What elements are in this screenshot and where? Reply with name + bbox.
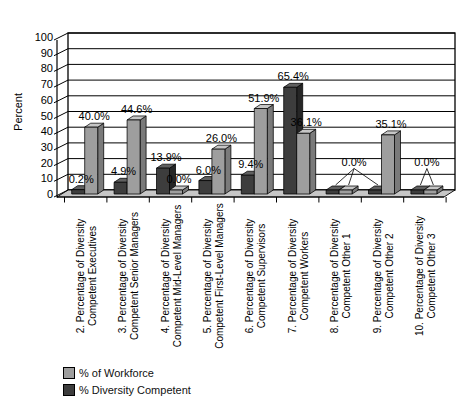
category-label-line: Competent Other 1	[341, 233, 352, 318]
category-label-line: Competent Workers	[299, 232, 310, 321]
category-label-line: Competent Executives	[87, 226, 98, 326]
bar	[254, 109, 267, 194]
bar-value-label: 35.1%	[375, 118, 406, 130]
y-axis-tick	[54, 143, 68, 150]
category-label: 7. Percentage of DiversityCompetent Work…	[287, 219, 310, 334]
y-tick-label: 50	[41, 110, 53, 122]
y-tick-label: 70	[41, 78, 53, 90]
category-label-line: 2. Percentage of Diversity	[75, 219, 86, 334]
bar	[72, 190, 85, 194]
category-label-line: 9. Percentage of Diversity	[372, 219, 383, 334]
bar-value-label: 0.0%	[166, 173, 191, 185]
category-label-line: 8. Percentage of Diversity	[329, 219, 340, 334]
category-label-line: 4. Percentage of Diversity	[160, 219, 171, 334]
bar-value-label: 6.0%	[196, 164, 221, 176]
category-label: 5. Percentage of DiversityCompetent Firs…	[202, 203, 225, 349]
chart-figure: 0102030405060708090100Percent0.2%40.0%4.…	[0, 0, 472, 418]
bar	[339, 190, 352, 194]
y-axis-tick	[54, 64, 68, 71]
bar	[170, 190, 183, 194]
y-axis-tick	[54, 174, 68, 181]
chart-legend: % of Workforce % Diversity Competent	[63, 367, 191, 396]
category-label: 10. Percentage of DiversityCompetent Oth…	[414, 216, 437, 336]
legend-swatch-diversity-competent	[63, 384, 75, 396]
bar	[326, 190, 339, 194]
category-label: 9. Percentage of DiversityCompetent Othe…	[372, 219, 395, 334]
y-axis-tick	[54, 80, 68, 87]
bar-value-label: 65.4%	[278, 70, 309, 82]
y-axis-tick	[54, 33, 68, 40]
y-tick-label: 80	[41, 62, 53, 74]
category-label-line: Competent First-Level Managers	[214, 203, 225, 349]
bar-value-label: 40.0%	[79, 110, 110, 122]
bar	[424, 190, 437, 194]
legend-item-workforce: % of Workforce	[63, 367, 191, 379]
bar-side	[98, 123, 104, 194]
y-tick-label: 10	[41, 172, 53, 184]
bar-value-label: 4.9%	[111, 165, 136, 177]
bar-value-label: 13.9%	[150, 151, 181, 163]
bar	[127, 120, 140, 194]
category-label-line: Competent Senior Managers	[129, 212, 140, 340]
category-label-line: 5. Percentage of Diversity	[202, 219, 213, 334]
y-tick-label: 90	[41, 47, 53, 59]
category-label-line: 7. Percentage of Diversity	[287, 219, 298, 334]
bar-side	[267, 105, 273, 194]
y-tick-label: 0	[47, 188, 53, 200]
bar-value-label: 44.6%	[121, 103, 152, 115]
bar	[411, 190, 424, 194]
bar-side	[225, 145, 231, 194]
zero-callout-label: 0.0%	[342, 156, 367, 168]
y-axis-tick	[54, 96, 68, 103]
bar-value-label: 9.4%	[238, 158, 263, 170]
category-label-line: 10. Percentage of Diversity	[414, 216, 425, 336]
diversity-bar-chart: 0102030405060708090100Percent0.2%40.0%4.…	[0, 0, 472, 418]
legend-label-diversity-competent: % Diversity Competent	[79, 384, 191, 396]
category-label-line: 3. Percentage of Diversity	[117, 219, 128, 334]
bar	[369, 190, 382, 194]
bar	[241, 175, 254, 194]
bar-side	[310, 129, 316, 194]
bar-value-label: 36.1%	[291, 116, 322, 128]
y-axis-title: Percent	[12, 93, 24, 131]
category-label: 8. Percentage of DiversityCompetent Othe…	[329, 219, 352, 334]
y-axis-tick	[54, 112, 68, 119]
bar	[382, 135, 395, 194]
bar	[114, 182, 127, 194]
category-label: 4. Percentage of DiversityCompetent Mid-…	[160, 205, 183, 347]
category-label-line: Competent Other 2	[384, 233, 395, 318]
category-label-line: Competent Supervisors	[256, 224, 267, 329]
legend-label-workforce: % of Workforce	[79, 367, 154, 379]
y-tick-label: 30	[41, 141, 53, 153]
bar	[297, 133, 310, 194]
category-label-line: Competent Mid-Level Managers	[172, 205, 183, 347]
legend-item-diversity-competent: % Diversity Competent	[63, 384, 191, 396]
category-label: 2. Percentage of DiversityCompetent Exec…	[75, 219, 98, 334]
y-tick-label: 60	[41, 94, 53, 106]
zero-callout-label: 0.0%	[414, 156, 439, 168]
bar-side	[140, 116, 146, 194]
bar-side	[395, 131, 401, 194]
category-label: 6. Percentage of DiversityCompetent Supe…	[244, 219, 267, 334]
y-tick-label: 20	[41, 157, 53, 169]
bar-value-label: 26.0%	[206, 132, 237, 144]
y-axis-tick	[54, 127, 68, 134]
y-axis-tick	[54, 49, 68, 56]
y-tick-label: 100	[35, 31, 53, 43]
bar-value-label: 51.9%	[248, 92, 279, 104]
y-tick-label: 40	[41, 125, 53, 137]
legend-swatch-workforce	[63, 367, 75, 379]
y-axis-tick	[54, 159, 68, 166]
category-label-line: Competent Other 3	[426, 233, 437, 318]
category-label: 3. Percentage of DiversityCompetent Seni…	[117, 212, 140, 340]
bar	[284, 87, 297, 194]
bar	[199, 181, 212, 194]
category-label-line: 6. Percentage of Diversity	[244, 219, 255, 334]
bar-value-label: 0.2%	[69, 173, 94, 185]
